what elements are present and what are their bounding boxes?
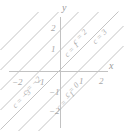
x-tick-label-pos1: 1 — [79, 77, 84, 86]
x-axis-label: x — [109, 61, 113, 71]
level-curve-cm3 — [1, 12, 39, 50]
y-tick-label-neg1: −1 — [49, 88, 60, 97]
x-tick-label-neg2: −2 — [12, 78, 23, 87]
y-tick-label-pos2: 2 — [51, 24, 56, 33]
y-axis-label: y — [62, 3, 66, 13]
y-tick-label-pos1: 1 — [51, 45, 56, 54]
plot-canvas — [0, 0, 124, 132]
coordinate-plane-figure: x y −2 −1 1 2 −2 −1 1 2 c = 3 c = 2 c = … — [0, 0, 124, 132]
x-tick-label-pos2: 2 — [99, 77, 104, 86]
